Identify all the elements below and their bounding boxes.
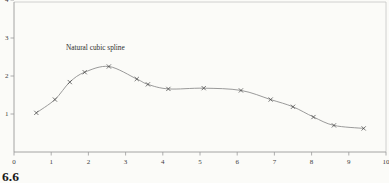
data-point-marker — [291, 105, 295, 109]
y-tick-label: 1 — [5, 110, 9, 118]
x-tick-label: 8 — [310, 158, 314, 166]
y-tick-label: 4 — [5, 0, 9, 4]
figure-number: 6.6 — [2, 169, 19, 183]
x-tick-label: 0 — [12, 158, 16, 166]
data-point-marker — [83, 70, 87, 74]
data-point-marker — [135, 77, 139, 81]
data-point-marker — [311, 115, 315, 119]
chart-generated-layer: 0123456789101234 — [5, 0, 389, 166]
natural-cubic-spline-chart: 0123456789101234 Natural cubic spline 6.… — [0, 0, 389, 183]
axis-lines — [14, 2, 386, 152]
plot-frame — [14, 2, 386, 152]
x-tick-label: 5 — [198, 158, 202, 166]
book-page: 0123456789101234 Natural cubic spline 6.… — [0, 0, 389, 183]
data-point-marker — [53, 97, 57, 101]
x-tick-label: 4 — [161, 158, 165, 166]
x-tick-label: 2 — [87, 158, 91, 166]
y-tick-label: 2 — [5, 72, 9, 80]
x-tick-label: 1 — [49, 158, 53, 166]
data-point-marker — [68, 80, 72, 84]
x-tick-label: 10 — [383, 158, 389, 166]
x-tick-label: 3 — [124, 158, 128, 166]
x-tick-label: 9 — [347, 158, 351, 166]
spline-curve — [36, 66, 363, 128]
plot-annotation: Natural cubic spline — [66, 43, 125, 52]
y-tick-label: 3 — [5, 34, 9, 42]
data-point-marker — [34, 111, 38, 115]
x-tick-label: 6 — [235, 158, 239, 166]
x-tick-label: 7 — [273, 158, 277, 166]
